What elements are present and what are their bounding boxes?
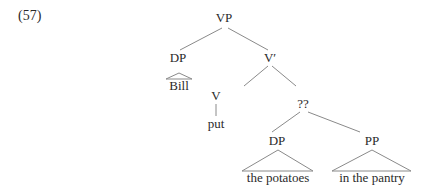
node-vbar: V′ [264,50,276,66]
node-unknown: ?? [297,96,309,112]
triangle-potatoes [242,150,313,171]
node-v: V [211,88,220,104]
branch-vbar-unknown [272,66,296,86]
branch-unknown-pp [308,112,360,132]
leaf-the-potatoes: the potatoes [247,170,309,185]
branch-vp-dp [180,28,222,50]
node-dp-subject: DP [170,50,187,66]
leaf-in-the-pantry: in the pantry [339,170,405,185]
leaf-bill: Bill [169,78,189,94]
leaf-put: put [208,116,225,132]
branch-unknown-dp [272,112,300,132]
branch-vbar-v [244,66,268,86]
node-vp: VP [216,10,233,26]
node-dp-object: DP [269,133,286,149]
branch-vp-vbar [228,28,268,50]
triangle-pantry [332,150,411,171]
node-pp: PP [365,133,379,149]
